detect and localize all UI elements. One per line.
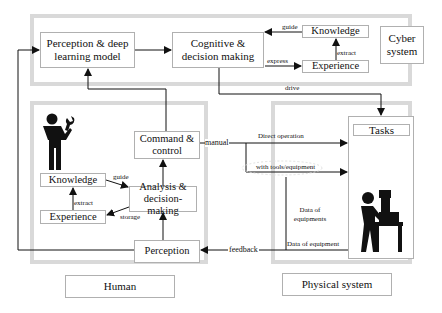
cyber-guide-edge-label: guide bbox=[282, 24, 298, 31]
with-tools-edge-label: with tools/equipment bbox=[256, 164, 315, 171]
storage-edge-label: storage bbox=[120, 214, 140, 221]
drive-edge-label: drive bbox=[285, 85, 299, 92]
human-guide-edge-label: guide bbox=[113, 174, 129, 181]
data-of-equipments-edge-label: Data of equipments bbox=[290, 206, 330, 224]
manual-edge-label: manual bbox=[205, 139, 229, 147]
data-of-equipment-edge-label: Data of equipment bbox=[287, 241, 339, 248]
worker-with-wrench-icon bbox=[38, 112, 78, 170]
cyber-express-edge-label: express bbox=[267, 58, 288, 65]
direct-operation-edge-label: Direct operation bbox=[258, 133, 304, 140]
human-extract-edge-label: extract bbox=[74, 200, 93, 207]
operator-at-machine-icon bbox=[355, 190, 407, 252]
cyber-extract-edge-label: extract bbox=[337, 50, 356, 57]
feedback-edge-label: feedback bbox=[228, 246, 259, 254]
